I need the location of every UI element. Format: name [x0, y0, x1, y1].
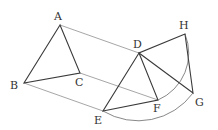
segment-CF	[80, 73, 158, 100]
label-E: E	[94, 114, 102, 127]
label-G: G	[195, 96, 204, 109]
segment-AD	[60, 25, 139, 53]
triangle-DEF	[103, 53, 158, 111]
label-D: D	[133, 38, 142, 51]
label-H: H	[179, 19, 189, 32]
triangle-ABC	[24, 25, 80, 83]
label-B: B	[10, 79, 18, 92]
arc-EG	[103, 93, 193, 121]
geometry-diagram: A B C D E F G H	[0, 0, 218, 130]
triangle-DGH	[139, 34, 193, 93]
label-F: F	[153, 102, 161, 115]
label-A: A	[53, 10, 63, 23]
label-C: C	[75, 76, 83, 89]
arc-FH	[158, 34, 189, 100]
segment-BE	[24, 83, 103, 111]
